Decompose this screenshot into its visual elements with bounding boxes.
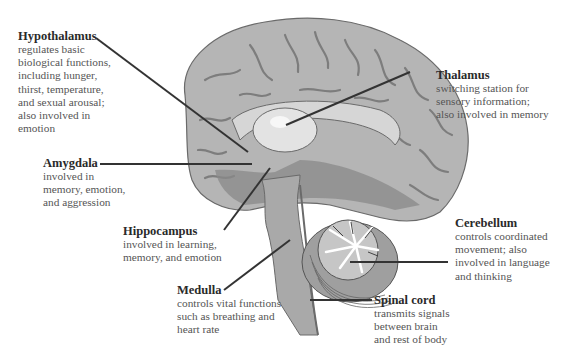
spinal-cord-title: Spinal cord bbox=[374, 293, 450, 307]
medulla-title: Medulla bbox=[177, 283, 281, 297]
thalamus-title: Thalamus bbox=[436, 68, 549, 82]
thalamus-description: switching station for sensory informatio… bbox=[436, 82, 549, 122]
label-hippocampus: Hippocampus involved in learning, memory… bbox=[123, 224, 222, 264]
label-spinal-cord: Spinal cord transmits signals between br… bbox=[374, 293, 450, 347]
label-thalamus: Thalamus switching station for sensory i… bbox=[436, 68, 549, 122]
hippocampus-title: Hippocampus bbox=[123, 224, 222, 238]
spinal-cord-description: transmits signals between brain and rest… bbox=[374, 307, 450, 347]
cerebellum-description: controls coordinated movement; also invo… bbox=[455, 230, 550, 283]
label-medulla: Medulla controls vital functions such as… bbox=[177, 283, 281, 337]
amygdala-description: involved in memory, emotion, and aggress… bbox=[43, 170, 125, 210]
label-cerebellum: Cerebellum controls coordinated movement… bbox=[455, 216, 550, 283]
thalamus-region bbox=[253, 108, 317, 152]
hippocampus-description: involved in learning, memory, and emotio… bbox=[123, 238, 222, 264]
label-hypothalamus: Hypothalamus regulates basic biological … bbox=[18, 29, 111, 135]
hypothalamus-title: Hypothalamus bbox=[18, 29, 111, 43]
label-amygdala: Amygdala involved in memory, emotion, an… bbox=[43, 156, 125, 210]
amygdala-title: Amygdala bbox=[43, 156, 125, 170]
medulla-description: controls vital functions such as breathi… bbox=[177, 297, 281, 337]
cerebellum-title: Cerebellum bbox=[455, 216, 550, 230]
hypothalamus-description: regulates basic biological functions, in… bbox=[18, 43, 111, 135]
